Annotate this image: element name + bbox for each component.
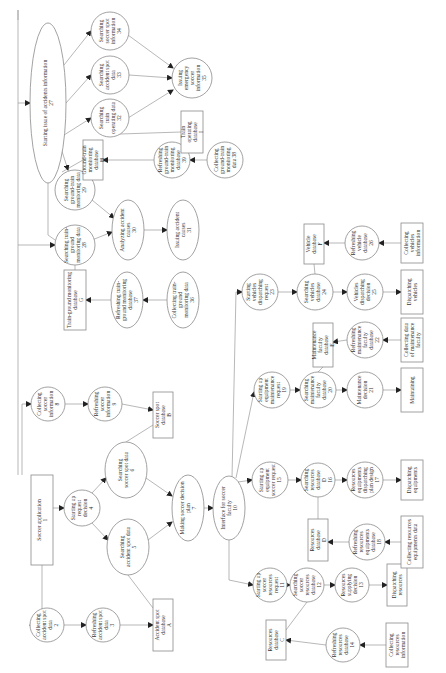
- edge-connector: [66, 75, 91, 103]
- node-n1: Soccer application1: [31, 475, 53, 565]
- node-n26: Refreshingvehicledatabase26: [345, 226, 379, 260]
- node-n36: Collecting train-groundmonitoring data36: [167, 272, 199, 328]
- edge-connector: [314, 264, 315, 274]
- node-n12: Searchingsoccerresourcesdatabase12: [290, 568, 324, 602]
- node-n8: Collectingsoccerinformation8: [31, 387, 65, 421]
- node-n14: Refreshingresourcesdatabase14: [326, 628, 360, 662]
- node-n27: Starting issue of accidents information2…: [30, 23, 66, 183]
- node-n21: Maintenancedecision21: [347, 372, 383, 408]
- node-nB: Soccer spotdatabaseB: [153, 392, 173, 438]
- edge-connector: [122, 404, 153, 410]
- node-n33: Searchingaccident spotdata33: [91, 56, 129, 94]
- node-n19: Starting upequipmentmaintenancerequest19: [254, 372, 290, 408]
- edge-connector: [120, 132, 181, 134]
- node-n32: Searchingtrainoperating data32: [91, 99, 129, 137]
- edge-connector: [318, 367, 323, 372]
- node-n16: SearchingresourcesdatabaseD16: [301, 463, 335, 497]
- node-n3: Refreshingaccident spotdata3: [86, 608, 120, 642]
- edge-connector: [238, 480, 252, 482]
- edge-connector: [286, 602, 307, 630]
- edge-connector: [129, 75, 172, 78]
- node-n9: Refreshingsoccerinformation9: [88, 387, 122, 421]
- node-nH: Ground-trainmonitoringdatabaseH: [81, 140, 106, 180]
- edge-connector: [148, 522, 172, 540]
- node-nDispVeh: Dispatchingvehicles: [401, 270, 423, 314]
- edge-connector: [92, 523, 108, 540]
- node-nG: Train-ground monitoringdatabaseG: [64, 270, 86, 330]
- node-n23: Startingvehiclesdispatchingrequest23: [242, 274, 278, 310]
- node-nColRes: Collectingresourcesinformation: [386, 623, 408, 667]
- node-nI: TrainoperatingdatabaseI: [180, 111, 205, 153]
- edge-connector: [64, 31, 91, 65]
- node-n35: Issuingemergencysoccerinformation35: [172, 58, 212, 98]
- node-n31: Issuing accidentcauses31: [167, 200, 199, 260]
- node-n25: Vehiclesdispatchingdecision25: [347, 274, 383, 310]
- edge-connector: [146, 478, 172, 496]
- diagram-canvas: Soccer application1Collectingaccident sp…: [0, 0, 446, 673]
- node-n6: Searchingsoccer spot data6: [105, 442, 147, 498]
- node-nC: ResourcesdatabaseC: [266, 620, 286, 660]
- edge-connector: [64, 118, 91, 135]
- node-n38: Collectingground-trainmonitoringdata 38: [207, 142, 243, 178]
- node-n22: Refreshingmaintenancefacultydatabase22: [347, 322, 383, 358]
- node-n4: Starting uprequestdecision4: [64, 490, 100, 526]
- edge-connector: [286, 640, 326, 645]
- node-nF: VehicledatabaseF: [304, 224, 324, 264]
- edge-connector: [22, 404, 31, 475]
- edge-connector: [92, 232, 112, 240]
- edge-connector: [232, 292, 242, 478]
- node-n7: Making soccer decisionplan7: [172, 475, 204, 541]
- node-nColEq: Collecting resourcesequipments data: [401, 516, 423, 568]
- node-n28: Searching train-groundmonitoring data28: [55, 225, 95, 265]
- node-n13: Resourcessupplyingdecision13: [335, 568, 369, 602]
- node-nMaint: Maintaining: [401, 368, 423, 412]
- node-n18: Refreshingresourcesequipmentsdatabase18: [349, 524, 385, 560]
- edge-connector: [92, 478, 106, 493]
- node-n15: Starting upequipmentsoccer request15: [252, 462, 288, 498]
- node-label: Dispatchingequipments: [406, 466, 418, 493]
- edge-connector: [128, 575, 153, 608]
- edge-connector: [48, 183, 55, 240]
- node-n5: Searchingaccident spot data5: [107, 519, 149, 575]
- node-nDispEq: Dispatchingequipments: [401, 460, 423, 500]
- node-n37: Refreshing train-ground monitoringdataba…: [111, 272, 143, 328]
- edge-connector: [229, 540, 253, 585]
- edge-connector: [92, 200, 114, 218]
- node-label: Collecting resourcesequipments data: [406, 519, 418, 565]
- node-n10: Interface for soccerfaculty10: [213, 476, 245, 540]
- node-n2: Collectingaccident spotdata2: [30, 608, 64, 642]
- node-n11: Starting upsoccerresourcesrequest11: [253, 568, 287, 602]
- node-label: Collectingresourcesinformation: [388, 632, 406, 659]
- node-nColMaint: Collecting dataof maintenancefaculty: [401, 318, 423, 362]
- nodes-layer: Soccer application1Collectingaccident sp…: [30, 12, 423, 667]
- node-nColVeh: Collectingvehiclesinformation: [401, 223, 423, 263]
- node-n20: Searchingmaintenancefacultydatabase20: [300, 372, 336, 408]
- node-nA: Accident spotdatabaseA: [153, 599, 173, 651]
- node-n17: Resourcesequipmentsdispatchingplan desig…: [347, 462, 383, 498]
- edge-connector: [236, 392, 254, 478]
- node-label: Maintaining: [409, 376, 415, 404]
- edge-connector: [128, 90, 173, 118]
- node-nD: ResourcesdatabaseD: [308, 519, 328, 561]
- edge-connector: [333, 340, 347, 342]
- node-n30: Analyzing accidentcauses30: [112, 200, 144, 260]
- node-label: Dispatchingresources: [391, 571, 403, 598]
- flowchart-diagram: Soccer application1Collectingaccident sp…: [0, 0, 446, 673]
- node-n34: Searchingsoccer spotinformation34: [91, 12, 129, 50]
- node-nRes: Dispatchingresources: [387, 564, 407, 606]
- edge-connector: [126, 425, 153, 442]
- node-n24: Searchingvehiclesdatabase24: [297, 274, 333, 310]
- edge-connector: [128, 35, 173, 68]
- node-nE: MaintenancefacultydatabaseE: [311, 323, 336, 367]
